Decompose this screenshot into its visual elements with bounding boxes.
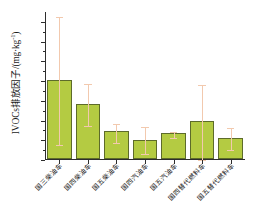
y-axis-title-exponent: -1	[9, 35, 16, 40]
y-axis-line	[45, 12, 46, 160]
x-tick-label: 国五柴油车	[92, 163, 121, 192]
error-bar-cap-lower	[56, 145, 63, 146]
y-tick-800	[41, 81, 45, 82]
x-axis-tick-labels: 国三柴油车国四柴油车国五柴油车国四汽油车国五汽油车国四替代燃料车国五替代燃料车	[45, 163, 245, 219]
y-minor-tick	[43, 32, 46, 33]
error-bar-cap-upper	[113, 124, 120, 125]
error-bar-cap-upper	[141, 127, 148, 128]
error-bar-line	[202, 85, 203, 160]
error-bar-line	[59, 17, 60, 145]
error-bar-cap-upper	[56, 17, 63, 18]
y-minor-tick	[43, 71, 46, 72]
y-minor-tick	[43, 51, 46, 52]
error-bar-cap-upper	[198, 85, 205, 86]
chart-figure: IVOCs排放因子/(mg·kg-1) 02004006008001000120…	[0, 0, 255, 219]
error-bar-line	[116, 124, 117, 143]
y-axis-title-main: IVOCs排放因子/(mg·kg	[11, 40, 21, 134]
error-bar-cap-lower	[141, 154, 148, 155]
y-tick-200	[41, 140, 45, 141]
x-tick-label: 国四汽油车	[120, 163, 149, 192]
error-bar-line	[88, 84, 89, 126]
error-bar-line	[145, 127, 146, 154]
y-tick-0	[41, 160, 45, 161]
y-tick-1000	[41, 61, 45, 62]
y-tick-1200	[41, 42, 45, 43]
error-bar-cap-lower	[227, 150, 234, 151]
y-minor-tick	[43, 130, 46, 131]
error-bar-cap-upper	[84, 84, 91, 85]
y-minor-tick	[43, 111, 46, 112]
y-axis-title: IVOCs排放因子/(mg·kg-1)	[8, 8, 22, 158]
error-bar-line	[231, 128, 232, 150]
error-bar-cap-lower	[84, 126, 91, 127]
error-bar-cap-upper	[170, 132, 177, 133]
error-bar-cap-upper	[227, 128, 234, 129]
y-axis-title-tail: )	[11, 32, 21, 35]
x-tick-label: 国三柴油车	[35, 163, 64, 192]
y-tick-1400	[41, 22, 45, 23]
y-tick-400	[41, 121, 45, 122]
plot-area: 0200400600800100012001400	[45, 12, 245, 160]
x-tick-label: 国四柴油车	[63, 163, 92, 192]
y-tick-600	[41, 101, 45, 102]
y-minor-tick	[43, 150, 46, 151]
error-bar-cap-lower	[170, 138, 177, 139]
error-bar-cap-lower	[113, 143, 120, 144]
y-minor-tick	[43, 91, 46, 92]
